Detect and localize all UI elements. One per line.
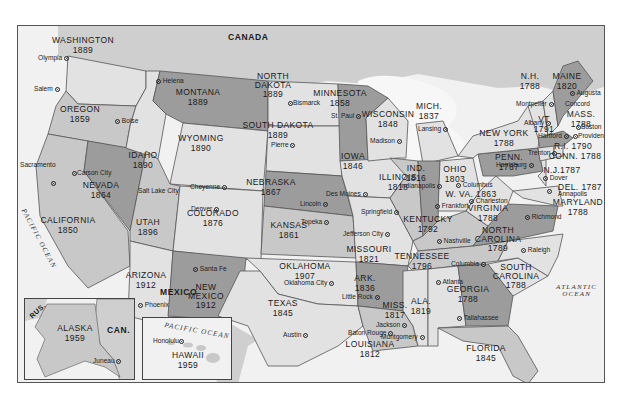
- capital-boise: Boise: [115, 118, 138, 125]
- capital-austin: Austin: [283, 332, 308, 339]
- country-label-canada: CANADA: [228, 33, 268, 42]
- capital-marker-icon: [156, 79, 161, 84]
- capital-annapolis: Annapolis: [558, 191, 587, 198]
- capital-montpelier: Montpelier: [516, 101, 554, 108]
- capital-trenton: Trenton: [528, 150, 557, 157]
- state-washington: WASHINGTON1889: [52, 36, 114, 54]
- state-wisconsin: WISCONSIN1848: [362, 110, 415, 128]
- capital-marker-icon: [543, 176, 548, 181]
- state-georgia: GEORGIA1788: [447, 285, 489, 303]
- capital-pierre: Pierre: [271, 142, 295, 149]
- capital-marker-icon: [116, 359, 121, 364]
- state-mississippi: MISS.1817: [382, 301, 407, 319]
- state-alabama: ALA.1819: [411, 297, 432, 315]
- state-new-hampshire: N.H.1788: [520, 72, 541, 90]
- capital-marker-icon: [437, 239, 442, 244]
- capital-marker-icon: [437, 184, 442, 189]
- capital-des-moines: Des Moines: [326, 191, 368, 198]
- capital-marker-icon: [436, 280, 441, 285]
- state-indiana: IND.1816: [406, 164, 427, 182]
- capital-nashville: Nashville: [437, 238, 471, 245]
- capital-atlanta: Atlanta: [436, 279, 463, 286]
- capital-juneau: Juneau: [93, 358, 121, 365]
- capital-topeka: Topeka: [301, 219, 329, 226]
- capital-marker-icon: [456, 183, 461, 188]
- state-california: CALIFORNIA1850: [40, 216, 95, 234]
- state-oregon: OREGON1859: [60, 105, 100, 123]
- capital-marker-icon: [64, 56, 69, 61]
- capital-marker-icon: [552, 151, 557, 156]
- capital-marker-icon: [288, 101, 293, 106]
- capital-columbia: Columbia: [451, 261, 486, 268]
- capital-springfield: Springfield: [361, 209, 399, 216]
- capital-marker-icon: [375, 295, 380, 300]
- state-arizona: ARIZONA1912: [126, 271, 167, 289]
- capital-santa-fe: Santa Fe: [193, 266, 227, 273]
- capital-marker-icon: [521, 248, 526, 253]
- state-texas: TEXAS1845: [268, 299, 298, 317]
- statehood-map: CANADA MEXICO PACIFIC OCEAN ATLANTICOCEA…: [17, 25, 605, 383]
- state-alaska: ALASKA1959: [57, 324, 92, 342]
- state-north-carolina: NORTH CAROLINA1789: [467, 226, 529, 253]
- capital-marker-icon: [356, 114, 361, 119]
- capital-salt-lake-city: Salt Lake City: [138, 188, 179, 195]
- capital-albany: Albany: [524, 120, 551, 127]
- state-kentucky: KENTUCKY1792: [403, 215, 453, 233]
- capital-sacramento: Sacramento: [20, 162, 56, 169]
- capital-marker-icon: [420, 335, 425, 340]
- capital-richmond: Richmond: [525, 214, 562, 221]
- state-south-carolina: SOUTH CAROLINA1788: [485, 263, 547, 290]
- capital-marker-icon: [138, 303, 143, 308]
- capital-marker-icon: [323, 202, 328, 207]
- capital-marker-icon: [481, 262, 486, 267]
- state-idaho: IDAHO1890: [129, 151, 158, 169]
- capital-marker-icon: [457, 316, 462, 321]
- capital-marker-icon: [55, 87, 60, 92]
- capital-marker-icon: [576, 125, 581, 130]
- ocean-label-atlantic: ATLANTICOCEAN: [556, 284, 597, 298]
- capital-concord: Concord: [565, 101, 590, 108]
- capital-denver: Denver: [191, 206, 219, 213]
- capital-marker-icon: [363, 192, 368, 197]
- state-iowa: IOWA1846: [341, 152, 365, 170]
- state-florida: FLORIDA1845: [466, 344, 506, 362]
- capital-dover: Dover: [543, 175, 567, 182]
- capital-marker-icon: [435, 204, 440, 209]
- capital-providence: Providence: [573, 133, 605, 140]
- capital-madison: Madison: [370, 138, 402, 145]
- capital-marker-icon: [290, 143, 295, 148]
- capital-marker-icon: [573, 134, 578, 139]
- capital-marker-icon: [72, 171, 77, 176]
- state-virginia: VIRGINIA1788: [468, 204, 509, 222]
- capital-marker-icon: [402, 323, 407, 328]
- capital-raleigh: Raleigh: [521, 247, 550, 254]
- capital-marker-icon: [549, 102, 554, 107]
- capital-bismarck: Bismarck: [288, 100, 320, 107]
- capital-marker-icon: [529, 163, 534, 168]
- capital-marker-icon: [397, 139, 402, 144]
- state-louisiana: LOUISIANA1812: [346, 340, 395, 358]
- capital-helena: Helena: [156, 78, 184, 85]
- capital-carson-city: Carson City: [72, 170, 111, 177]
- capital-boston: Boston: [576, 124, 602, 131]
- capital-honolulu: Honolulu: [153, 338, 184, 345]
- alaska-inset: RUS. CAN. ALASKA1959 Juneau: [24, 298, 135, 380]
- capital-hartford: Hartford: [538, 133, 569, 140]
- capital-charleston: Charleston: [469, 198, 508, 205]
- state-michigan: MICH.1837: [416, 102, 442, 120]
- state-new-york: NEW YORK1788: [479, 129, 528, 147]
- capital-jefferson-city: Jefferson City: [343, 231, 390, 238]
- state-hawaii: HAWAII1959: [172, 351, 204, 369]
- capital-marker-icon: [303, 333, 308, 338]
- capital-marker-icon: [324, 220, 329, 225]
- capital-lincoln: Lincoln: [300, 201, 328, 208]
- state-utah: UTAH1896: [136, 218, 160, 236]
- capital-st-paul: St. Paul: [331, 113, 361, 120]
- capital-marker-icon: [443, 127, 448, 132]
- state-tennessee: TENNESSEE1796: [394, 252, 449, 270]
- state-maine: MAINE1820: [553, 72, 582, 90]
- capital-marker-icon: [214, 207, 219, 212]
- state-montana: MONTANA1889: [176, 88, 221, 106]
- capital-marker-icon: [222, 185, 227, 190]
- state-arkansas: ARK.1836: [354, 274, 375, 292]
